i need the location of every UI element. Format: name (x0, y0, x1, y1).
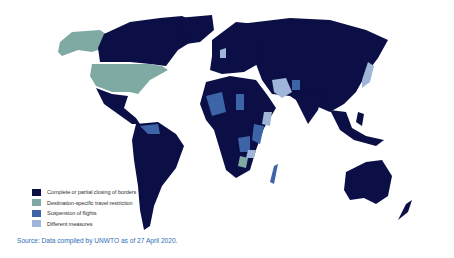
region-africa (200, 76, 276, 178)
legend-swatch (32, 189, 41, 196)
legend-label: Different measures (47, 221, 92, 227)
region-mexico (96, 88, 140, 124)
region-new-zealand (398, 200, 412, 220)
source-note: Source: Data compiled by UNWTO as of 27 … (17, 237, 177, 244)
legend-label: Suspension of flights (47, 210, 97, 216)
region-se-asia (330, 110, 384, 146)
region-afghanistan (292, 80, 300, 90)
region-madagascar (270, 164, 278, 184)
legend-swatch (32, 210, 41, 217)
region-south-america (132, 122, 184, 230)
region-philippines (356, 112, 364, 126)
legend-item-complete-closing: Complete or partial closing of borders (32, 187, 136, 198)
legend-item-different-measures: Different measures (32, 219, 136, 230)
legend-label: Complete or partial closing of borders (47, 189, 136, 195)
region-usa (90, 64, 168, 94)
region-india (296, 90, 322, 124)
region-chad (236, 94, 244, 110)
region-central-africa (238, 136, 250, 152)
legend-swatch (32, 220, 41, 227)
legend-label: Destination-specific travel restriction (47, 200, 133, 206)
legend-swatch (32, 199, 41, 206)
legend-item-suspension-flights: Suspension of flights (32, 208, 136, 219)
map-legend: Complete or partial closing of borders D… (32, 187, 136, 229)
region-australia (344, 160, 392, 204)
legend-item-destination-specific: Destination-specific travel restriction (32, 198, 136, 209)
